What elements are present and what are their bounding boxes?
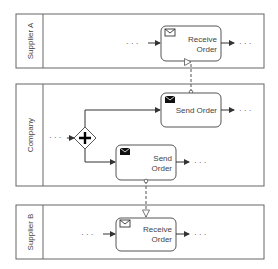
envelope-outline-icon: [165, 29, 175, 36]
task-receive-order-a[interactable]: Receive Order: [161, 26, 221, 61]
svg-text:Send: Send: [153, 154, 172, 163]
svg-text:Order: Order: [152, 164, 173, 173]
pool-supplier-a[interactable]: Supplier A: [16, 14, 264, 68]
envelope-outline-icon: [120, 220, 130, 227]
pool-label-company: Company: [26, 118, 35, 152]
svg-text:Order: Order: [197, 45, 218, 54]
ellipsis-in-receive-b: · · ·: [81, 230, 93, 239]
ellipsis-out-send-bottom: · · ·: [194, 158, 206, 167]
envelope-filled-icon: [120, 148, 130, 155]
task-send-order-bottom[interactable]: Send Order: [116, 145, 176, 180]
svg-text:Receive: Receive: [188, 35, 217, 44]
svg-text:Receive: Receive: [143, 225, 172, 234]
ellipsis-out-receive-a: · · ·: [239, 39, 251, 48]
bpmn-diagram: Supplier A Company Supplier B · · · Rece…: [0, 0, 278, 269]
task-receive-order-b[interactable]: Receive Order: [116, 218, 176, 251]
pool-label-supplier-a: Supplier A: [26, 22, 35, 59]
svg-text:Order: Order: [152, 235, 173, 244]
svg-text:Send Order: Send Order: [176, 106, 218, 115]
ellipsis-in-receive-a: · · ·: [126, 39, 138, 48]
svg-text:· · ·: · · ·: [126, 39, 138, 48]
ellipsis-out-send-top: · · ·: [239, 106, 251, 115]
envelope-filled-icon: [165, 96, 175, 103]
task-send-order-top[interactable]: Send Order: [161, 93, 221, 127]
ellipsis-out-receive-b: · · ·: [194, 230, 206, 239]
pool-label-supplier-b: Supplier B: [26, 214, 35, 251]
ellipsis-in-gateway: · · ·: [49, 133, 61, 142]
